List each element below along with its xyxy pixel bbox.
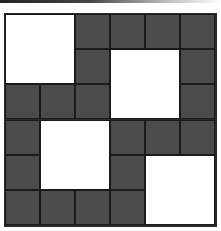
dark-cell <box>5 120 40 155</box>
dark-cell <box>180 14 215 49</box>
tiling-grid <box>4 13 217 227</box>
dark-cell <box>110 190 145 225</box>
dark-cell <box>180 49 215 84</box>
top-edge-bar <box>0 0 221 3</box>
dark-cell <box>75 190 110 225</box>
dark-cell <box>5 84 40 119</box>
light-block <box>110 49 180 119</box>
dark-cell <box>40 84 75 119</box>
dark-cell <box>75 49 110 84</box>
dark-cell <box>40 190 75 225</box>
dark-cell <box>110 14 145 49</box>
light-block <box>40 120 110 190</box>
dark-cell <box>75 14 110 49</box>
dark-cell <box>180 120 215 155</box>
dark-cell <box>5 190 40 225</box>
dark-cell <box>145 14 180 49</box>
dark-cell <box>110 120 145 155</box>
dark-cell <box>75 84 110 119</box>
dark-cell <box>5 155 40 190</box>
light-block <box>5 14 75 84</box>
dark-cell <box>180 84 215 119</box>
light-block <box>145 155 215 225</box>
dark-cell <box>110 155 145 190</box>
dark-cell <box>145 120 180 155</box>
